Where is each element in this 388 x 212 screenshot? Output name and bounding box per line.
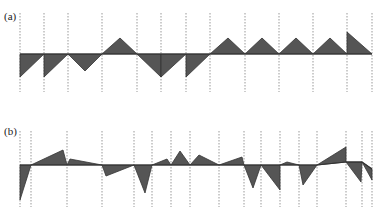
triangle — [137, 54, 161, 77]
triangle — [171, 151, 190, 165]
panel-b: (b) — [4, 125, 372, 207]
triangle — [102, 165, 134, 176]
triangle — [261, 165, 280, 190]
panel-a-label: (a) — [4, 10, 17, 23]
triangle — [245, 38, 279, 54]
panel-a: (a) — [4, 10, 372, 92]
triangle — [67, 159, 102, 165]
panel-b-label: (b) — [4, 125, 17, 138]
triangle — [346, 162, 362, 182]
triangle — [31, 150, 67, 165]
triangle — [68, 54, 102, 71]
triangle — [20, 54, 44, 77]
panel-b-gridlines — [20, 131, 372, 207]
triangle — [102, 38, 137, 54]
diagram-canvas: (a) (b) — [0, 0, 388, 212]
triangle — [313, 38, 347, 54]
triangle — [219, 157, 244, 165]
triangle — [244, 165, 261, 188]
triangle — [279, 38, 313, 54]
triangle — [186, 54, 210, 77]
triangle — [362, 162, 372, 180]
panel-b-triangles — [20, 147, 372, 200]
triangle — [152, 159, 171, 165]
triangle — [161, 54, 186, 77]
triangle — [190, 155, 219, 165]
triangle — [44, 54, 68, 77]
triangle — [134, 165, 152, 193]
triangle — [347, 32, 372, 54]
triangle — [299, 165, 317, 185]
triangle — [210, 38, 245, 54]
triangle — [20, 165, 31, 200]
